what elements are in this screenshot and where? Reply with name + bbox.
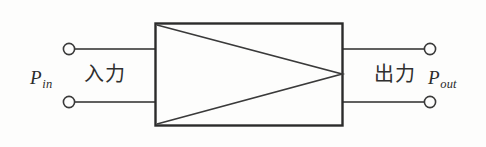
output-power-symbol: Pout [428, 68, 456, 87]
output-top-terminal [424, 43, 435, 54]
input-power-symbol-subscript: in [42, 77, 52, 91]
output-power-symbol-subscript: out [440, 77, 456, 91]
amplifier-box [156, 24, 343, 126]
amplifier-triangle-icon [157, 25, 342, 124]
input-power-symbol-base: P [30, 67, 42, 88]
input-top-terminal [63, 43, 74, 54]
input-label-jp: 入力 [84, 64, 126, 84]
input-power-symbol: Pin [30, 68, 52, 87]
output-label-jp: 出力 [374, 64, 416, 84]
input-bottom-terminal [63, 96, 74, 107]
amplifier-block-diagram: Pin 入力 出力 Pout [0, 0, 486, 147]
output-power-symbol-base: P [428, 67, 440, 88]
output-bottom-terminal [424, 96, 435, 107]
